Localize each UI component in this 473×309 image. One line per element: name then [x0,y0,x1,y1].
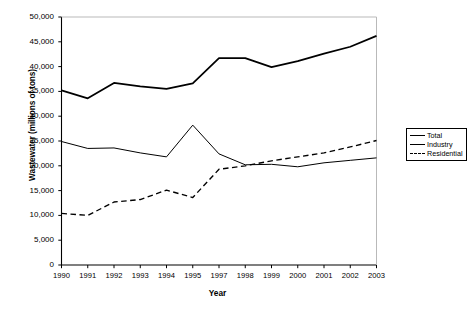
chart-legend: TotalIndustryResidential [406,128,467,161]
legend-item-label: Total [426,131,442,140]
legend-item-label: Industry [426,140,453,149]
plot-area [0,0,473,309]
x-axis-tick-labels: 1990199119921993199419951997199819992000… [0,271,473,285]
legend-item-residential[interactable]: Residential [409,149,463,158]
legend-item-total[interactable]: Total [409,131,463,140]
legend-line-swatch-icon [409,149,426,158]
chart-figure: Wastewater (millions of tons) 50,00045,0… [0,0,473,309]
legend-line-swatch-icon [409,131,426,140]
series-line-residential [62,141,377,216]
legend-item-label: Residential [426,149,463,158]
series-line-industry [62,125,377,167]
x-axis-title: Year [60,288,375,298]
legend-line-swatch-icon [409,140,426,149]
legend-item-industry[interactable]: Industry [409,140,463,149]
series-line-total [62,36,377,98]
x-axis-tick-label: 2003 [357,271,397,280]
